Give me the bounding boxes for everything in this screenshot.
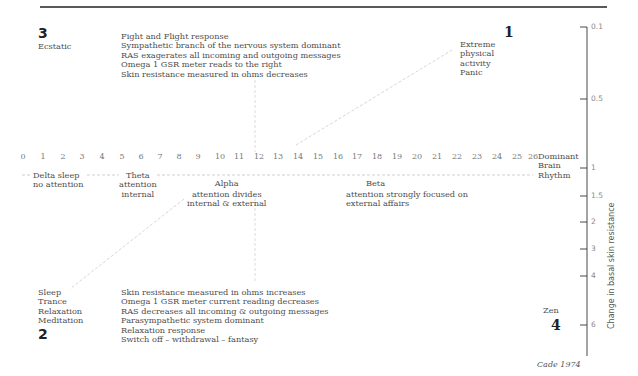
band-name: Alpha [213,179,241,188]
y-tick: 2 [591,217,596,226]
x-tick: 0 [14,152,32,161]
x-tick: 2 [54,152,72,161]
y-tick: 3 [591,244,596,253]
x-tick: 17 [348,152,366,161]
x-tick: 3 [73,152,91,161]
x-tick: 15 [309,152,327,161]
x-tick: 5 [113,152,131,161]
x-axis-label: Dominant Brain Rhythm [538,152,579,180]
quadrant-4-number: 4 [551,317,561,333]
lower-notes: Skin resistance measured in ohms increas… [121,288,329,344]
quadrant-2-state: Meditation [38,316,83,325]
y-tick: 6 [591,320,596,329]
x-tick: 7 [151,152,169,161]
band-desc: internal [119,190,157,199]
x-tick: 21 [428,152,446,161]
x-tick: 12 [250,152,268,161]
y-tick: 1 [591,163,596,172]
band-name: Beta [364,179,387,188]
y-tick: 0.5 [591,94,603,103]
x-tick: 19 [388,152,406,161]
band-desc: external affairs [346,199,468,208]
x-tick: 9 [189,152,207,161]
quadrant-1-state: Panic [460,68,495,77]
band-delta: Delta sleep no attention [32,171,85,190]
quadrant-3-number: 3 [38,25,48,41]
quadrant-2-number: 2 [38,326,48,342]
lower-note: Switch off – withdrawal – fantasy [121,335,329,344]
x-tick: 1 [34,152,52,161]
x-tick: 23 [468,152,486,161]
x-tick: 8 [170,152,188,161]
x-tick: 24 [488,152,506,161]
quadrant-1-states: Extreme physical activity Panic [460,40,495,78]
band-desc: no attention [33,180,84,189]
band-alpha: Alpha attention divides internal & exter… [187,171,267,209]
upper-notes: Fight and Flight response Sympathetic br… [121,32,341,79]
x-tick: 14 [289,152,307,161]
x-tick: 18 [368,152,386,161]
x-tick: 13 [269,152,287,161]
band-beta: Beta attention strongly focused on exter… [346,171,468,209]
x-tick: 22 [448,152,466,161]
x-tick: 10 [211,152,229,161]
quadrant-3-label: Ecstatic [38,42,71,51]
quadrant-2-states: Sleep Trance Relaxation Meditation [38,288,83,326]
band-theta: Theta attention internal [119,171,157,199]
x-tick: 11 [230,152,248,161]
x-tick: 16 [329,152,347,161]
x-tick: 6 [132,152,150,161]
x-axis-label-line: Rhythm [538,171,579,180]
quadrant-1-number: 1 [504,24,514,40]
x-axis-ticks: 0 1 2 3 4 5 6 7 8 9 10 11 12 13 14 15 16… [0,152,540,164]
y-tick: 0.1 [591,22,603,31]
credit: Cade 1974 [537,360,581,369]
y-tick: 1.5 [591,191,603,200]
x-tick: 20 [408,152,426,161]
y-tick: 4 [591,271,596,280]
band-desc: internal & external [187,199,267,208]
upper-note: Skin resistance measured in ohms decreas… [121,70,341,79]
x-tick: 4 [93,152,111,161]
y-axis-label: Change in basal skin resistance [607,203,616,329]
quadrant-4-label: Zen [543,306,559,315]
